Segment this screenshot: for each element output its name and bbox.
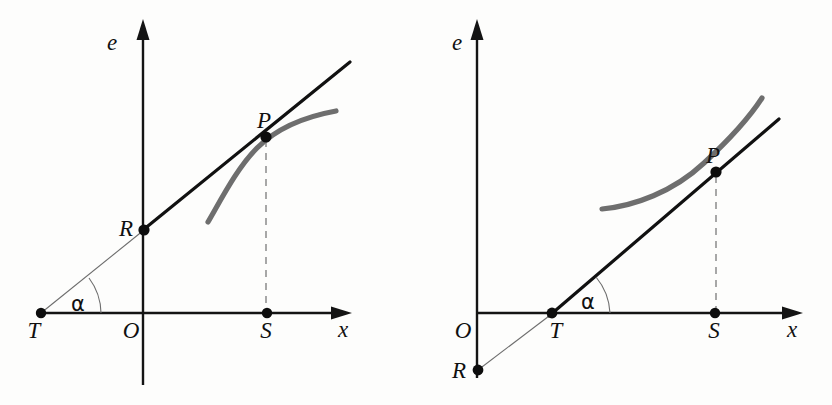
diagram-right-panel: e x O T S R P α — [416, 0, 832, 405]
subtangent-ray-left — [41, 230, 144, 313]
label-point-R-right: R — [451, 358, 466, 383]
label-e-right: e — [452, 30, 462, 55]
label-point-O-right: O — [455, 318, 472, 343]
label-point-P-left: P — [256, 108, 271, 133]
label-point-R-left: R — [118, 216, 133, 241]
label-angle-alpha-right: α — [581, 290, 595, 314]
point-R-right — [473, 365, 484, 376]
label-point-S-left: S — [260, 318, 272, 343]
label-point-T-right: T — [550, 318, 565, 343]
label-point-O-left: O — [123, 318, 140, 343]
label-e-left: e — [107, 30, 117, 55]
tangent-line-left — [143, 62, 350, 230]
label-point-P-right: P — [705, 143, 720, 168]
subtangent-ray-right — [478, 313, 553, 370]
e-axis-arrowhead-icon — [471, 19, 484, 40]
label-point-T-left: T — [28, 318, 43, 343]
figure-container: e x T O S R P α — [0, 0, 832, 405]
angle-arc-right — [596, 277, 610, 313]
point-T-left — [36, 308, 46, 318]
tangent-line-right — [549, 119, 779, 316]
e-axis-right — [471, 19, 484, 378]
point-S-right — [710, 308, 720, 318]
point-R-left — [138, 224, 149, 235]
point-P-left — [260, 131, 271, 142]
diagram-left-panel: e x T O S R P α — [0, 0, 416, 405]
label-x-right: x — [786, 317, 798, 342]
point-P-right — [710, 166, 721, 177]
label-x-left: x — [337, 317, 349, 342]
angle-arc-left — [89, 278, 101, 313]
x-axis-right — [477, 307, 803, 320]
label-point-S-right: S — [708, 318, 720, 343]
point-T-right — [547, 308, 558, 319]
curve-left — [208, 111, 336, 222]
e-axis-arrowhead-icon — [137, 19, 150, 40]
point-S-left — [262, 308, 272, 318]
label-angle-alpha-left: α — [71, 292, 85, 316]
